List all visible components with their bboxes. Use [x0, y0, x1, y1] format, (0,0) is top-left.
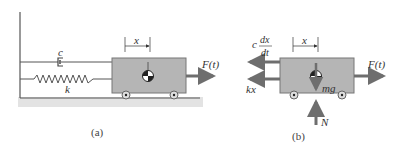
wheel-right — [170, 91, 178, 99]
normal-label-n: N — [320, 116, 329, 128]
damper — [20, 58, 112, 66]
force-label-a: F(t) — [201, 58, 219, 71]
damping-fraction-num: dx — [260, 34, 270, 45]
force-label-b: F(t) — [367, 58, 385, 71]
damping-fraction-den: dt — [261, 47, 269, 58]
displacement-label-x-b: x — [301, 34, 307, 46]
panel-b: mg x c dx dt kx F(t) N — [246, 34, 385, 128]
wheel-right — [338, 91, 346, 99]
spring-label-k: k — [65, 83, 71, 95]
caption-a: (a) — [91, 126, 104, 139]
center-of-mass-icon — [143, 71, 154, 82]
weight-label-mg: mg — [322, 82, 336, 94]
diagram-canvas: c k x — [0, 0, 399, 150]
wheel-left — [290, 91, 298, 99]
damping-coef-c: c — [252, 38, 257, 50]
damper-label-c: c — [58, 46, 63, 58]
panel-a: c k x — [18, 12, 203, 107]
wheel-left — [122, 91, 130, 99]
displacement-label-x-a: x — [133, 34, 139, 46]
spring — [20, 75, 112, 83]
caption-b: (b) — [292, 130, 305, 143]
spring-force-label-kx: kx — [246, 83, 256, 95]
